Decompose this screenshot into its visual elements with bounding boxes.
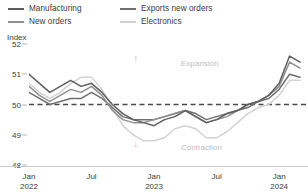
y-tick-label-52: 52 [12, 40, 21, 49]
expansion-label: Expansion [181, 59, 218, 68]
series-line-electronics [29, 77, 300, 141]
arrow-up-icon: ↑ [133, 53, 139, 64]
x-tick-line1: Jul [86, 172, 96, 182]
chart-legend: Manufacturing Exports new orders New ord… [8, 2, 300, 28]
legend-item-exports-new-orders[interactable]: Exports new orders [120, 2, 300, 15]
legend-swatch-electronics [120, 21, 136, 23]
x-tick-line1: Jan [145, 172, 163, 182]
series-line-new-orders [29, 62, 300, 123]
chart-container: Manufacturing Exports new orders New ord… [0, 0, 308, 193]
x-tick-line1: Jan [20, 172, 38, 182]
x-tick-line2: 2022 [20, 182, 38, 192]
x-tick-line2: 2023 [145, 182, 163, 192]
y-axis-labels: 5251504948 [0, 0, 30, 193]
legend-label-exports-new-orders: Exports new orders [141, 2, 212, 15]
legend-swatch-exports-new-orders [120, 8, 136, 10]
x-tick-line2: 2024 [270, 182, 288, 192]
legend-item-electronics[interactable]: Electronics [120, 15, 300, 28]
legend-label-manufacturing: Manufacturing [29, 2, 82, 15]
axis-baseline [0, 166, 308, 167]
y-tick-label-50: 50 [12, 100, 21, 109]
y-tick-mark-51 [22, 74, 27, 75]
x-tick-label-1: Jul [86, 172, 96, 182]
x-tick-label-3: Jul [211, 172, 221, 182]
legend-label-new-orders: New orders [29, 15, 71, 28]
x-tick-label-2: Jan2023 [145, 172, 163, 191]
series-line-manufacturing [29, 56, 300, 126]
arrow-down-icon: ↓ [133, 138, 139, 149]
y-tick-label-49: 49 [12, 130, 21, 139]
y-tick-label-51: 51 [12, 70, 21, 79]
x-tick-label-0: Jan2022 [20, 172, 38, 191]
x-tick-line1: Jan [270, 172, 288, 182]
y-tick-mark-49 [22, 134, 27, 135]
series-lines [29, 44, 306, 165]
x-axis-labels: Jan2022JulJan2023JulJan2024 [0, 168, 308, 193]
plot-area: Expansion ↑ Contraction ↓ [29, 44, 306, 165]
x-tick-line1: Jul [211, 172, 221, 182]
x-tick-label-4: Jan2024 [270, 172, 288, 191]
legend-label-electronics: Electronics [141, 15, 182, 28]
y-tick-mark-50 [22, 104, 27, 105]
y-tick-mark-52 [22, 44, 27, 45]
contraction-label: Contraction [181, 143, 222, 152]
